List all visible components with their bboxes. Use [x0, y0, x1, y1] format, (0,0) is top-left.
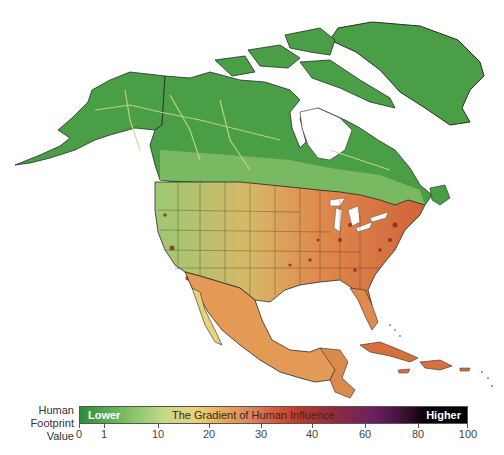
tick-label-0: 0	[76, 428, 82, 440]
north-america-human-footprint-map	[0, 0, 504, 400]
legend-title: The Gradient of Human Influence	[172, 409, 335, 422]
legend-label-footprint: Footprint	[0, 417, 74, 430]
puerto-rico	[460, 368, 470, 371]
legend-gradient-bar: Lower The Gradient of Human Influence Hi…	[79, 406, 468, 424]
tick-label-60: 60	[359, 428, 371, 440]
legend-label-human: Human	[0, 404, 74, 417]
legend-lower-label: Lower	[88, 409, 120, 422]
tick-label-40: 40	[306, 428, 318, 440]
tick-label-100: 100	[459, 428, 477, 440]
florida	[350, 288, 378, 330]
alaska	[15, 72, 165, 165]
greenland	[330, 22, 484, 125]
tick-label-20: 20	[203, 428, 215, 440]
hispaniola	[420, 360, 452, 370]
arctic-islands	[285, 28, 335, 55]
jamaica	[398, 369, 410, 373]
cuba	[360, 342, 418, 362]
tick-label-30: 30	[255, 428, 267, 440]
legend-higher-label: Higher	[426, 409, 461, 422]
tick-label-10: 10	[152, 428, 164, 440]
tick-label-1: 1	[101, 428, 107, 440]
tick-label-80: 80	[412, 428, 424, 440]
legend-label-value: Value	[0, 430, 74, 443]
newfoundland	[430, 185, 450, 205]
